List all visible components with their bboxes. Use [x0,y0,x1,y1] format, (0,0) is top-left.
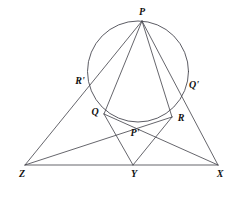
segment-Z-R [25,117,172,165]
segment-X-Q [104,114,218,165]
geometry-canvas [0,0,245,198]
label-Q: Q [91,107,98,117]
label-P: P [139,7,145,17]
label-Y: Y [131,169,137,179]
label-P-prime: P' [131,128,140,138]
segment-Y-Q [104,114,133,165]
label-R-prime: R' [75,76,84,86]
segment-P-X [142,21,218,165]
label-R: R [178,113,185,123]
label-X: X [217,169,224,179]
circle-through-P-Q-R [88,21,189,122]
segment-P-Z [25,21,142,165]
geometry-figure: P R' Q' Q R P' Z Y X [0,0,245,198]
label-Q-prime: Q' [189,80,199,90]
segment-P-Q [104,21,142,114]
label-Z: Z [19,169,25,179]
segment-Y-R [133,117,172,165]
